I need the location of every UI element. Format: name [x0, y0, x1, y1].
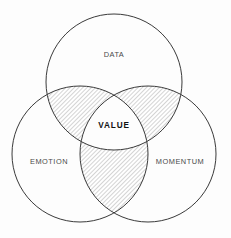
label-momentum: MOMENTUM: [156, 157, 204, 166]
label-emotion: EMOTION: [30, 157, 68, 166]
venn-diagram: DATA EMOTION MOMENTUM VALUE: [0, 0, 231, 238]
label-data: DATA: [104, 50, 125, 59]
venn-diagram-canvas: DATA EMOTION MOMENTUM VALUE: [0, 0, 231, 238]
label-value: VALUE: [98, 121, 130, 130]
